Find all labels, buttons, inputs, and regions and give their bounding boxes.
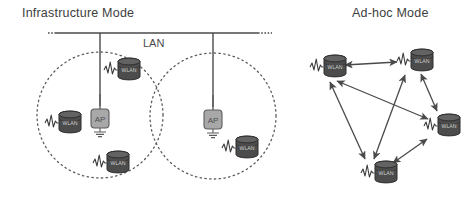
adhoc-link-topleft-bottom xyxy=(330,82,365,159)
adhoc-node[interactable]: WLAN xyxy=(424,114,460,136)
access-point-label: AP xyxy=(208,116,219,125)
wlan-station-label: WLAN xyxy=(111,160,126,166)
access-point-label: AP xyxy=(95,115,106,124)
wlan-station[interactable]: WLAN xyxy=(93,151,129,173)
wlan-station-label: WLAN xyxy=(379,170,394,176)
wlan-station-label: WLAN xyxy=(442,123,457,129)
adhoc-node[interactable]: WLAN xyxy=(310,55,346,77)
adhoc-node[interactable]: WLAN xyxy=(397,49,433,71)
wlan-station-label: WLAN xyxy=(122,67,137,73)
network-diagram-svg: AP AP WLAN WLAN WLAN WLAN xyxy=(0,0,475,202)
adhoc-node[interactable]: WLAN xyxy=(361,161,397,183)
adhoc-link-bottom-topright xyxy=(374,75,405,159)
adhoc-link-topleft-right xyxy=(337,81,428,119)
diagram-canvas: Infrastructure Mode Ad-hoc Mode LAN xyxy=(0,0,475,202)
adhoc-link-right-bottom xyxy=(393,139,427,163)
access-point-right[interactable]: AP xyxy=(204,95,222,138)
wlan-station-label: WLAN xyxy=(63,120,78,126)
wlan-station[interactable]: WLAN xyxy=(104,58,140,80)
wlan-station-label: WLAN xyxy=(240,145,255,151)
wlan-station[interactable]: WLAN xyxy=(222,136,258,158)
adhoc-link-group xyxy=(330,62,437,163)
wlan-station-label: WLAN xyxy=(415,58,430,64)
access-point-left[interactable]: AP xyxy=(91,94,109,137)
wlan-station[interactable]: WLAN xyxy=(45,111,81,133)
adhoc-link-topleft-topright xyxy=(345,62,397,65)
adhoc-link-topright-right xyxy=(421,74,437,111)
wlan-station-label: WLAN xyxy=(328,64,343,70)
